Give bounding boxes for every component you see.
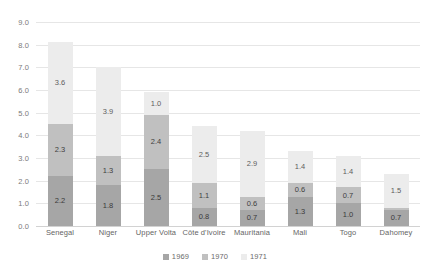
bar-segment-1969[interactable]: 0.7 [384, 210, 409, 226]
x-axis-tick-label: Mali [276, 228, 324, 237]
legend-item[interactable]: 1969 [163, 252, 189, 261]
bar-stack[interactable]: 1.40.61.3 [288, 151, 313, 226]
bar-segment-1969[interactable]: 0.7 [240, 210, 265, 226]
y-axis-tick-label: 9.0 [18, 18, 29, 27]
y-axis-tick-label: 5.0 [18, 108, 29, 117]
y-axis-tick-label: 2.0 [18, 176, 29, 185]
bar-segment-1971[interactable]: 2.5 [192, 126, 217, 183]
bar-value-label: 0.6 [295, 186, 306, 194]
bar-segment-1969[interactable]: 2.2 [48, 176, 73, 226]
x-axis: SenegalNigerUpper VoltaCôte d'IvoireMaur… [36, 228, 420, 244]
gridline-0.0 [36, 226, 420, 227]
bar-value-label: 1.8 [103, 202, 114, 210]
bar-value-label: 2.3 [55, 146, 66, 154]
bar-segment-1970[interactable]: 2.3 [48, 124, 73, 176]
legend-swatch-icon [202, 254, 208, 260]
y-axis-tick-label: 8.0 [18, 40, 29, 49]
bar-segment-1971[interactable]: 2.9 [240, 131, 265, 197]
bar-segment-1971[interactable]: 3.9 [96, 67, 121, 155]
bar-value-label: 2.9 [247, 160, 258, 168]
y-axis-tick-label: 6.0 [18, 86, 29, 95]
bar-value-label: 1.3 [103, 167, 114, 175]
legend-swatch-icon [163, 254, 169, 260]
x-axis-tick-label: Senegal [36, 228, 84, 237]
bar-value-label: 3.6 [55, 79, 66, 87]
bar-segment-1971[interactable]: 1.4 [288, 151, 313, 183]
bar-value-label: 2.5 [151, 194, 162, 202]
bar-value-label: 1.0 [343, 211, 354, 219]
bar-stack[interactable]: 1.40.71.0 [336, 156, 361, 226]
bar-segment-1969[interactable]: 1.8 [96, 185, 121, 226]
bar-stack[interactable]: 2.90.60.7 [240, 131, 265, 226]
bar-value-label: 2.2 [55, 197, 66, 205]
bar-segment-1971[interactable]: 1.4 [336, 156, 361, 188]
bar-value-label: 1.3 [295, 208, 306, 216]
bar-segment-1970[interactable]: 0.6 [240, 197, 265, 211]
bar-stack[interactable]: 3.62.32.2 [48, 42, 73, 226]
x-axis-tick-label: Niger [84, 228, 132, 237]
bar-stack[interactable]: 1.50.10.7 [384, 174, 409, 226]
bar-value-label: 3.9 [103, 108, 114, 116]
bar-value-label: 1.0 [151, 100, 162, 108]
bar-segment-1969[interactable]: 1.3 [288, 197, 313, 226]
legend-item[interactable]: 1970 [202, 252, 228, 261]
bar-value-label: 0.8 [199, 213, 210, 221]
y-axis-tick-label: 1.0 [18, 199, 29, 208]
bar-stack[interactable]: 3.91.31.8 [96, 67, 121, 226]
bar-value-label: 0.7 [391, 214, 402, 222]
legend-label: 1970 [211, 252, 228, 261]
x-axis-tick-label: Togo [324, 228, 372, 237]
bar-value-label: 0.7 [247, 214, 258, 222]
y-axis-tick-label: 3.0 [18, 154, 29, 163]
bar-segment-1970[interactable]: 0.7 [336, 187, 361, 203]
stacked-bar-chart: 9.08.07.06.05.04.03.02.01.00.0 3.62.32.2… [0, 0, 430, 278]
y-axis-tick-label: 7.0 [18, 63, 29, 72]
x-axis-tick-label: Mauritania [228, 228, 276, 237]
legend-swatch-icon [241, 254, 247, 260]
bar-value-label: 1.4 [343, 168, 354, 176]
bar-segment-1971[interactable]: 1.5 [384, 174, 409, 208]
bar-value-label: 0.7 [343, 192, 354, 200]
y-axis-tick-label: 0.0 [18, 222, 29, 231]
bar-segment-1969[interactable]: 1.0 [336, 203, 361, 226]
y-axis-tick-label: 4.0 [18, 131, 29, 140]
bar-segment-1969[interactable]: 2.5 [144, 169, 169, 226]
x-axis-tick-label: Côte d'Ivoire [180, 228, 228, 237]
legend-label: 1969 [172, 252, 189, 261]
bar-stack[interactable]: 1.02.42.5 [144, 92, 169, 226]
legend-label: 1971 [250, 252, 267, 261]
bar-segment-1969[interactable]: 0.8 [192, 208, 217, 226]
bar-value-label: 1.1 [199, 192, 210, 200]
bar-segment-1970[interactable]: 0.6 [288, 183, 313, 197]
x-axis-tick-label: Upper Volta [132, 228, 180, 237]
bar-value-label: 0.6 [247, 200, 258, 208]
bar-segment-1970[interactable]: 1.3 [96, 156, 121, 185]
bar-segment-1970[interactable]: 2.4 [144, 115, 169, 169]
bar-segment-1971[interactable]: 1.0 [144, 92, 169, 115]
bar-value-label: 2.4 [151, 138, 162, 146]
y-axis: 9.08.07.06.05.04.03.02.01.00.0 [0, 22, 34, 226]
bar-stack[interactable]: 2.51.10.8 [192, 126, 217, 226]
legend-item[interactable]: 1971 [241, 252, 267, 261]
bar-value-label: 2.5 [199, 151, 210, 159]
bars-layer: 3.62.32.23.91.31.81.02.42.52.51.10.82.90… [36, 22, 420, 226]
bar-value-label: 1.5 [391, 187, 402, 195]
bar-segment-1970[interactable]: 1.1 [192, 183, 217, 208]
chart-legend: 196919701971 [0, 252, 430, 261]
bar-segment-1971[interactable]: 3.6 [48, 42, 73, 124]
bar-value-label: 1.4 [295, 163, 306, 171]
x-axis-tick-label: Dahomey [372, 228, 420, 237]
